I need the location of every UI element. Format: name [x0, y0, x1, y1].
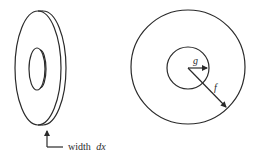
- width-label: width dx: [68, 141, 106, 152]
- annulus-figure: g f: [131, 10, 245, 124]
- washer-front-face: [15, 11, 61, 125]
- width-label-var: dx: [96, 141, 106, 152]
- outer-radius-arrow: [188, 68, 226, 107]
- outer-radius-label: f: [214, 82, 218, 93]
- washer-hole: [29, 48, 45, 90]
- diagram-canvas: width dx g f: [0, 0, 257, 159]
- washer-figure: width dx: [15, 11, 106, 152]
- inner-radius-label: g: [193, 55, 198, 66]
- outer-circle: [131, 10, 245, 124]
- width-label-text: width: [68, 141, 91, 152]
